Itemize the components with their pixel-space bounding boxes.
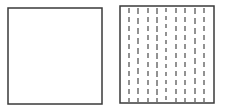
two-squares-diagram <box>0 0 226 109</box>
right-square-outline <box>120 6 214 103</box>
diagram-canvas <box>0 0 226 109</box>
vertical-dashed-lines <box>129 8 204 102</box>
left-empty-square <box>8 8 102 104</box>
right-dashed-square <box>120 6 214 103</box>
